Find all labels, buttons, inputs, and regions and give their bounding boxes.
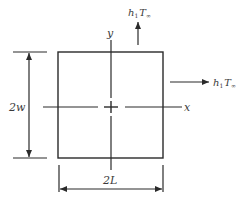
top-convection-label: h1T∞ (128, 7, 151, 19)
width-label: 2L (102, 174, 117, 187)
diagram-canvas: y x 2w 2L h1T∞ h1T∞ (0, 0, 246, 202)
height-label: 2w (8, 101, 26, 114)
y-axis-label: y (106, 27, 114, 40)
origin-cross-icon (104, 101, 118, 113)
right-convection-label: h1T∞ (213, 77, 236, 89)
x-axis-label: x (184, 101, 191, 114)
